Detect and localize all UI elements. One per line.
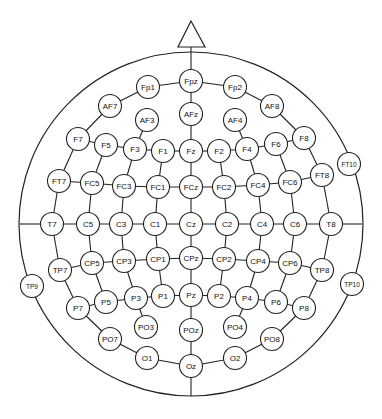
electrode-label: C6 bbox=[290, 220, 301, 229]
electrode-label: P4 bbox=[242, 294, 252, 303]
electrode-af7: AF7 bbox=[99, 95, 122, 118]
electrode-label: Fpz bbox=[184, 77, 197, 86]
electrode-label: CP2 bbox=[216, 255, 232, 264]
electrode-label: C1 bbox=[150, 220, 161, 229]
electrode-label: CP1 bbox=[150, 255, 166, 264]
electrode-p8: P8 bbox=[293, 297, 316, 320]
electrode-cz: Cz bbox=[180, 213, 203, 236]
electrode-ft8: FT8 bbox=[311, 164, 334, 187]
electrode-label: FC2 bbox=[216, 183, 232, 192]
electrode-label: TP9 bbox=[26, 283, 38, 290]
electrode-label: PO4 bbox=[227, 323, 244, 332]
electrode-label: T7 bbox=[47, 220, 57, 229]
electrode-label: F3 bbox=[130, 145, 140, 154]
electrode-fc6: FC6 bbox=[279, 171, 302, 194]
electrode-f8: F8 bbox=[293, 127, 316, 150]
electrode-label: FCz bbox=[184, 183, 199, 192]
electrode-cp6: CP6 bbox=[279, 252, 302, 275]
electrode-label: F8 bbox=[299, 134, 309, 143]
electrode-cp5: CP5 bbox=[81, 252, 104, 275]
electrode-label: FC5 bbox=[84, 179, 100, 188]
electrode-af8: AF8 bbox=[261, 95, 284, 118]
electrode-f2: F2 bbox=[208, 140, 231, 163]
electrode-fc5: FC5 bbox=[81, 172, 104, 195]
electrode-pz: Pz bbox=[180, 284, 203, 307]
electrode-cp3: CP3 bbox=[113, 250, 136, 273]
electrode-label: FC3 bbox=[116, 182, 132, 191]
electrode-label: AF3 bbox=[140, 116, 155, 125]
electrode-f5: F5 bbox=[95, 134, 118, 157]
electrode-fc1: FC1 bbox=[147, 176, 170, 199]
electrode-label: PO7 bbox=[102, 335, 119, 344]
electrode-po4: PO4 bbox=[224, 316, 247, 339]
electrode-fp1: Fp1 bbox=[137, 76, 160, 99]
electrode-fc3: FC3 bbox=[113, 175, 136, 198]
electrode-c5: C5 bbox=[77, 213, 100, 236]
electrode-label: CP5 bbox=[84, 259, 100, 268]
electrode-label: Oz bbox=[186, 362, 196, 371]
electrode-label: P8 bbox=[299, 304, 309, 313]
electrode-f6: F6 bbox=[265, 133, 288, 156]
eeg-electrode-diagram: FpzFp1Fp2AF7AF3AFzAF4AF8F7F5F3F1FzF2F4F6… bbox=[0, 0, 382, 419]
electrode-label: POz bbox=[183, 326, 199, 335]
electrode-label: FC6 bbox=[282, 178, 298, 187]
electrode-f1: F1 bbox=[152, 140, 175, 163]
electrode-ft7: FT7 bbox=[48, 170, 71, 193]
electrode-label: FC4 bbox=[250, 181, 266, 190]
electrode-label: P3 bbox=[131, 294, 141, 303]
electrode-label: T8 bbox=[326, 220, 336, 229]
electrode-label: P7 bbox=[73, 304, 83, 313]
electrode-p2: P2 bbox=[208, 285, 231, 308]
electrode-fz: Fz bbox=[180, 140, 203, 163]
electrode-label: O2 bbox=[230, 354, 241, 363]
electrode-label: O1 bbox=[142, 354, 153, 363]
electrode-fc4: FC4 bbox=[247, 174, 270, 197]
electrode-fp2: Fp2 bbox=[224, 76, 247, 99]
electrode-p3: P3 bbox=[125, 287, 148, 310]
electrode-c3: C3 bbox=[110, 213, 133, 236]
electrode-af3: AF3 bbox=[136, 109, 159, 132]
electrode-label: PO8 bbox=[264, 335, 281, 344]
electrode-label: F5 bbox=[101, 141, 111, 150]
electrode-t7: T7 bbox=[41, 213, 64, 236]
electrode-tp9: TP9 bbox=[21, 275, 44, 298]
electrode-c1: C1 bbox=[144, 213, 167, 236]
electrode-label: TP8 bbox=[315, 266, 330, 275]
electrode-label: FT8 bbox=[315, 171, 330, 180]
electrode-label: PO3 bbox=[138, 323, 155, 332]
electrode-tp7: TP7 bbox=[49, 259, 72, 282]
electrode-p5: P5 bbox=[95, 291, 118, 314]
electrode-label: Pz bbox=[186, 291, 195, 300]
electrode-tp8: TP8 bbox=[311, 259, 334, 282]
electrode-fcz: FCz bbox=[180, 176, 203, 199]
electrode-label: F7 bbox=[73, 135, 83, 144]
electrode-label: AF4 bbox=[228, 116, 243, 125]
electrode-label: Cz bbox=[186, 220, 196, 229]
electrode-label: F1 bbox=[158, 147, 168, 156]
electrode-label: CP4 bbox=[250, 257, 266, 266]
electrode-cpz: CPz bbox=[180, 247, 203, 270]
electrode-ft10: FT10 bbox=[338, 153, 361, 176]
electrode-label: P6 bbox=[271, 298, 281, 307]
electrode-label: C2 bbox=[222, 220, 233, 229]
electrode-label: TP10 bbox=[344, 281, 360, 288]
electrode-c2: C2 bbox=[216, 213, 239, 236]
electrode-label: CP3 bbox=[116, 257, 132, 266]
electrode-cp1: CP1 bbox=[147, 248, 170, 271]
electrode-c6: C6 bbox=[284, 213, 307, 236]
electrode-po8: PO8 bbox=[261, 328, 284, 351]
electrode-label: Fz bbox=[187, 147, 196, 156]
electrode-t8: T8 bbox=[320, 213, 343, 236]
electrode-fc2: FC2 bbox=[213, 176, 236, 199]
electrode-tp10: TP10 bbox=[341, 273, 364, 296]
electrode-label: P2 bbox=[214, 292, 224, 301]
electrode-o2: O2 bbox=[224, 347, 247, 370]
electrode-label: AFz bbox=[184, 110, 198, 119]
electrode-f3: F3 bbox=[124, 138, 147, 161]
electrode-af4: AF4 bbox=[224, 109, 247, 132]
electrode-p1: P1 bbox=[152, 285, 175, 308]
electrode-po7: PO7 bbox=[99, 328, 122, 351]
electrode-poz: POz bbox=[180, 319, 203, 342]
electrode-label: FC1 bbox=[150, 183, 166, 192]
electrode-label: AF8 bbox=[265, 102, 280, 111]
